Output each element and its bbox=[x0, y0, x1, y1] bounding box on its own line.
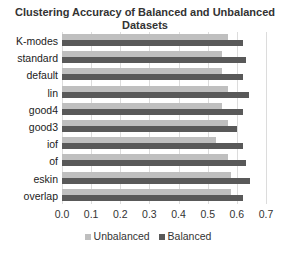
bar-balanced bbox=[62, 195, 243, 201]
x-tick-label: 0.5 bbox=[193, 208, 223, 220]
bar-group bbox=[62, 49, 266, 66]
category-label: good3 bbox=[0, 121, 58, 133]
legend-label-unbalanced: Unbalanced bbox=[94, 230, 150, 242]
legend: Unbalanced Balanced bbox=[0, 230, 290, 242]
category-label: K-modes bbox=[0, 35, 58, 47]
category-label: of bbox=[0, 155, 58, 167]
bar-group bbox=[62, 135, 266, 152]
x-tick-label: 0.4 bbox=[164, 208, 194, 220]
bar-balanced bbox=[62, 57, 246, 63]
bar-balanced bbox=[62, 178, 250, 184]
category-label: overlap bbox=[0, 190, 58, 202]
category-label: eskin bbox=[0, 173, 58, 185]
bar-group bbox=[62, 118, 266, 135]
category-label: lin bbox=[0, 87, 58, 99]
plot-area bbox=[62, 32, 266, 204]
category-label: iof bbox=[0, 138, 58, 150]
bar-group bbox=[62, 66, 266, 83]
bar-group bbox=[62, 170, 266, 187]
bar-balanced bbox=[62, 92, 249, 98]
category-label: default bbox=[0, 69, 58, 81]
category-label: good4 bbox=[0, 104, 58, 116]
bar-balanced bbox=[62, 126, 237, 132]
bar-group bbox=[62, 187, 266, 204]
gridline bbox=[266, 32, 267, 204]
legend-label-balanced: Balanced bbox=[168, 230, 212, 242]
bar-group bbox=[62, 84, 266, 101]
x-tick-label: 0.3 bbox=[134, 208, 164, 220]
category-label: standard bbox=[0, 52, 58, 64]
bar-balanced bbox=[62, 143, 243, 149]
bar-balanced bbox=[62, 40, 243, 46]
bar-balanced bbox=[62, 74, 243, 80]
x-tick-label: 0.7 bbox=[251, 208, 281, 220]
chart-title: Clustering Accuracy of Balanced and Unba… bbox=[0, 6, 290, 32]
legend-swatch-unbalanced bbox=[85, 234, 91, 240]
x-tick-label: 0.2 bbox=[105, 208, 135, 220]
bar-group bbox=[62, 101, 266, 118]
bar-balanced bbox=[62, 160, 246, 166]
x-tick-label: 0.0 bbox=[47, 208, 77, 220]
x-tick-label: 0.1 bbox=[76, 208, 106, 220]
bar-group bbox=[62, 152, 266, 169]
bar-group bbox=[62, 32, 266, 49]
legend-swatch-balanced bbox=[159, 234, 165, 240]
bar-balanced bbox=[62, 109, 243, 115]
x-tick-label: 0.6 bbox=[222, 208, 252, 220]
